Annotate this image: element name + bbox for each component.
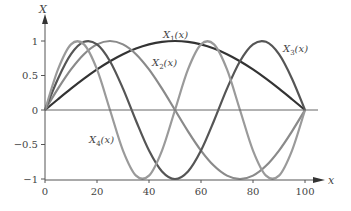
- x-tick-label: 60: [195, 186, 208, 197]
- x-tick-label: 20: [91, 186, 104, 197]
- series-label-3: X3(x): [282, 43, 308, 57]
- x-tick-label: 0: [42, 186, 48, 197]
- x-tick-label: 80: [247, 186, 260, 197]
- x-axis-arrow-icon: [313, 177, 325, 183]
- labels-group: 10.50−0.5−1020406080100XxX1(x)X2(x)X3(x)…: [14, 3, 335, 197]
- y-axis-label: X: [38, 3, 48, 16]
- y-tick-label: −1: [23, 174, 38, 185]
- y-tick-label: 0: [32, 105, 38, 116]
- series-label-4: X4(x): [88, 134, 114, 148]
- y-tick-label: 1: [32, 36, 38, 47]
- y-tick-label: 0.5: [22, 70, 38, 81]
- series-line-1: [45, 41, 305, 110]
- y-tick-label: −0.5: [14, 139, 38, 150]
- x-axis-label: x: [328, 174, 335, 187]
- chart: 10.50−0.5−1020406080100XxX1(x)X2(x)X3(x)…: [0, 0, 351, 211]
- x-tick-label: 40: [143, 186, 156, 197]
- x-tick-label: 100: [295, 186, 314, 197]
- series-label-2: X2(x): [151, 57, 177, 71]
